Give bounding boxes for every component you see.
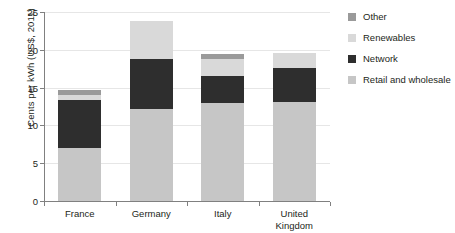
x-axis-label-united-kingdom: UnitedKingdom — [251, 208, 337, 231]
bar-segment-retail-and-wholesale[interactable] — [201, 103, 244, 201]
y-tick-mark — [40, 125, 44, 126]
y-tick-label: 10 — [27, 120, 38, 131]
bar-segment-renewables[interactable] — [130, 21, 173, 59]
legend-item-retail-and-wholesale[interactable]: Retail and wholesale — [348, 71, 454, 88]
bar-segment-network[interactable] — [273, 68, 316, 102]
bar-segment-network[interactable] — [58, 100, 101, 148]
bar-segment-renewables[interactable] — [201, 59, 244, 76]
x-tick-mark — [259, 202, 260, 206]
x-tick-mark — [330, 202, 331, 206]
legend-item-network[interactable]: Network — [348, 50, 454, 67]
x-tick-mark — [116, 202, 117, 206]
legend-swatch-icon — [348, 13, 356, 21]
bar-italy[interactable] — [201, 54, 244, 201]
y-tick-label: 0 — [33, 196, 38, 207]
gridline — [45, 50, 330, 51]
legend-swatch-icon — [348, 76, 356, 84]
bar-segment-retail-and-wholesale[interactable] — [273, 102, 316, 201]
bar-segment-network[interactable] — [130, 59, 173, 109]
legend-item-other[interactable]: Other — [348, 8, 454, 25]
bar-united-kingdom[interactable] — [273, 53, 316, 201]
legend-swatch-icon — [348, 55, 356, 63]
stacked-bar-chart: Cents per kWh (US$, 2011) 2520151050 Fra… — [0, 0, 455, 233]
legend-label: Renewables — [363, 32, 415, 43]
y-tick-label: 15 — [27, 82, 38, 93]
bar-france[interactable] — [58, 90, 101, 201]
y-tick-label: 5 — [33, 158, 38, 169]
gridline — [45, 12, 330, 13]
legend-label: Retail and wholesale — [363, 74, 451, 85]
legend-label: Network — [363, 53, 398, 64]
y-tick-mark — [40, 12, 44, 13]
bar-segment-retail-and-wholesale[interactable] — [130, 109, 173, 201]
y-tick-label: 20 — [27, 44, 38, 55]
y-tick-mark — [40, 50, 44, 51]
y-tick-mark — [40, 163, 44, 164]
bar-segment-renewables[interactable] — [273, 53, 316, 68]
y-axis-title: Cents per kWh (US$, 2011) — [25, 0, 36, 158]
legend-label: Other — [363, 11, 387, 22]
x-tick-mark — [44, 202, 45, 206]
x-tick-mark — [187, 202, 188, 206]
bar-segment-network[interactable] — [201, 76, 244, 102]
chart-legend: OtherRenewablesNetworkRetail and wholesa… — [348, 8, 454, 92]
legend-item-renewables[interactable]: Renewables — [348, 29, 454, 46]
plot-area: 2520151050 FranceGermanyItalyUnitedKingd… — [44, 12, 330, 202]
y-tick-label: 25 — [27, 7, 38, 18]
y-axis-line — [44, 12, 45, 202]
y-tick-mark — [40, 88, 44, 89]
bar-segment-retail-and-wholesale[interactable] — [58, 148, 101, 201]
bar-germany[interactable] — [130, 21, 173, 201]
legend-swatch-icon — [348, 34, 356, 42]
